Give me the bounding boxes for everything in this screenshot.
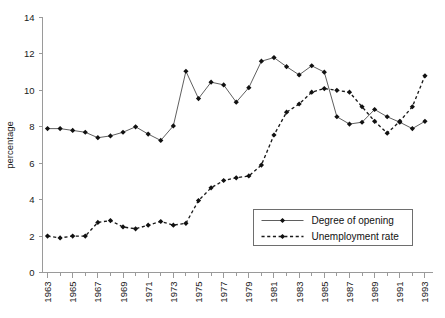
data-point-marker bbox=[385, 114, 390, 119]
data-point-marker bbox=[334, 88, 339, 93]
y-tick-label: 6 bbox=[29, 158, 34, 169]
data-point-marker bbox=[259, 59, 264, 64]
data-point-marker bbox=[95, 135, 100, 140]
x-tick-label: 1987 bbox=[344, 282, 355, 303]
data-point-marker bbox=[422, 73, 427, 78]
y-tick-label: 14 bbox=[24, 12, 35, 23]
data-point-marker bbox=[322, 70, 327, 75]
line-chart: 02468101214 1963196519671969197119731975… bbox=[0, 0, 445, 318]
data-point-marker bbox=[410, 126, 415, 131]
data-point-marker bbox=[58, 126, 63, 131]
x-tick-label: 1989 bbox=[369, 282, 380, 303]
x-tick-label: 1971 bbox=[143, 282, 154, 303]
data-point-marker bbox=[133, 124, 138, 129]
data-point-marker bbox=[70, 128, 75, 133]
data-point-marker bbox=[45, 233, 50, 238]
x-tick-label: 1977 bbox=[218, 282, 229, 303]
data-point-marker bbox=[347, 121, 352, 126]
data-point-marker bbox=[45, 126, 50, 131]
data-point-marker bbox=[385, 131, 390, 136]
y-axis-title: percentage bbox=[4, 121, 15, 169]
series-1 bbox=[45, 55, 428, 143]
data-point-marker bbox=[120, 224, 125, 229]
data-point-marker bbox=[146, 223, 151, 228]
data-point-marker bbox=[133, 226, 138, 231]
y-tick-label: 10 bbox=[24, 85, 35, 96]
chart-container: 02468101214 1963196519671969197119731975… bbox=[0, 0, 445, 318]
y-tick-label: 8 bbox=[29, 121, 34, 132]
y-axis-ticks: 02468101214 bbox=[24, 12, 43, 278]
y-tick-label: 4 bbox=[29, 194, 34, 205]
x-tick-label: 1981 bbox=[268, 282, 279, 303]
x-axis-ticks: 1963196519671969197119731975197719791981… bbox=[42, 273, 430, 303]
data-point-marker bbox=[322, 86, 327, 91]
legend-item-label: Degree of opening bbox=[312, 215, 394, 226]
x-tick-label: 1985 bbox=[319, 282, 330, 303]
series-line bbox=[48, 58, 425, 141]
legend-item-label: Unemployment rate bbox=[312, 231, 400, 242]
data-point-marker bbox=[183, 69, 188, 74]
x-tick-label: 1965 bbox=[67, 282, 78, 303]
data-point-marker bbox=[108, 133, 113, 138]
y-tick-label: 2 bbox=[29, 231, 34, 242]
data-point-marker bbox=[234, 175, 239, 180]
x-tick-label: 1993 bbox=[419, 282, 430, 303]
data-point-marker bbox=[70, 233, 75, 238]
data-point-marker bbox=[334, 114, 339, 119]
data-point-marker bbox=[183, 221, 188, 226]
x-tick-label: 1963 bbox=[42, 282, 53, 303]
x-tick-label: 1975 bbox=[193, 282, 204, 303]
data-point-marker bbox=[372, 119, 377, 124]
x-tick-label: 1973 bbox=[168, 282, 179, 303]
y-tick-label: 0 bbox=[29, 267, 34, 278]
x-tick-label: 1983 bbox=[294, 282, 305, 303]
data-point-marker bbox=[422, 119, 427, 124]
data-point-marker bbox=[146, 131, 151, 136]
data-point-marker bbox=[271, 132, 276, 137]
data-point-marker bbox=[120, 130, 125, 135]
y-tick-label: 12 bbox=[24, 48, 35, 59]
y-axis-label: percentage bbox=[4, 121, 15, 169]
data-point-marker bbox=[196, 198, 201, 203]
x-tick-label: 1967 bbox=[92, 282, 103, 303]
data-point-marker bbox=[171, 223, 176, 228]
x-tick-label: 1991 bbox=[394, 282, 405, 303]
x-tick-label: 1969 bbox=[118, 282, 129, 303]
chart-legend: Degree of openingUnemployment rate bbox=[254, 210, 413, 246]
data-point-marker bbox=[347, 90, 352, 95]
x-tick-label: 1979 bbox=[243, 282, 254, 303]
data-point-marker bbox=[158, 219, 163, 224]
data-point-marker bbox=[58, 235, 63, 240]
data-point-marker bbox=[221, 178, 226, 183]
data-point-marker bbox=[83, 130, 88, 135]
data-point-marker bbox=[108, 218, 113, 223]
